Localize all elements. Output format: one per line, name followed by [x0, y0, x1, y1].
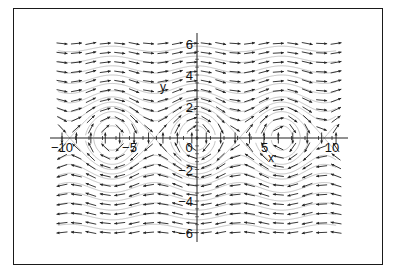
y-tick-label: 4 [186, 68, 193, 83]
y-tick-label: 2 [186, 100, 193, 115]
axes: −10−50510 642−2−4−6 x y [50, 33, 348, 242]
x-tick-label: 0 [185, 140, 192, 155]
vector-field-plot: −10−50510 642−2−4−6 x y [0, 0, 395, 277]
x-tick-label: −5 [122, 140, 137, 155]
x-axis-ticks: −10−50510 [51, 136, 339, 155]
y-axis-label: y [160, 80, 166, 94]
y-tick-label: −4 [178, 194, 193, 209]
x-tick-label: −10 [51, 140, 73, 155]
y-tick-label: −6 [178, 226, 193, 241]
y-tick-label: 6 [186, 37, 193, 52]
x-axis-label: x [268, 151, 274, 165]
x-tick-label: 10 [325, 140, 339, 155]
y-tick-label: −2 [178, 163, 193, 178]
